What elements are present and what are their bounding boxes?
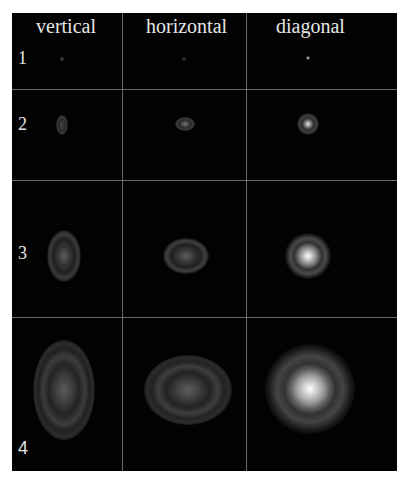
column-divider — [246, 13, 247, 471]
row-label-1: 1 — [18, 48, 27, 69]
pattern-horizontal-1 — [181, 57, 187, 61]
pattern-diagonal-1 — [306, 56, 311, 61]
column-header-diagonal: diagonal — [276, 15, 345, 38]
column-header-vertical: vertical — [36, 15, 96, 38]
column-header-horizontal: horizontal — [146, 15, 227, 38]
column-divider — [122, 13, 123, 471]
pattern-diagonal-4 — [265, 344, 355, 434]
row-divider — [12, 180, 397, 181]
row-label-3: 3 — [18, 243, 27, 264]
pattern-horizontal-4 — [144, 355, 232, 425]
pattern-vertical-3 — [47, 230, 81, 282]
pattern-diagonal-3 — [285, 233, 331, 279]
row-label-2: 2 — [18, 114, 27, 135]
row-label-4: 4 — [18, 438, 28, 459]
pattern-vertical-2 — [56, 115, 68, 135]
pattern-horizontal-3 — [163, 238, 209, 274]
pattern-vertical-1 — [60, 56, 65, 62]
pattern-diagonal-2 — [297, 113, 319, 135]
pattern-vertical-4 — [33, 340, 95, 440]
pattern-horizontal-2 — [175, 117, 195, 131]
pattern-grid-panel: vertical horizontal diagonal 1 2 3 4 — [12, 13, 397, 471]
row-divider — [12, 89, 397, 90]
row-divider — [12, 317, 397, 318]
